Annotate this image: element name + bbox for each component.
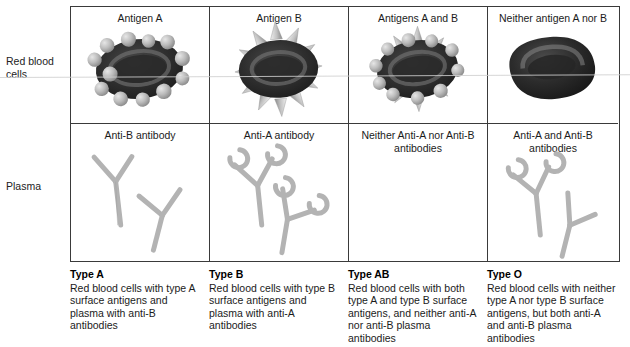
- cell-plasma-type-ab: Neither Anti-A nor Anti-B antibodies: [349, 123, 488, 261]
- cell-rbc-type-a: Antigen A: [71, 7, 210, 123]
- caption-type-o: Type O Red blood cells with neither type…: [487, 268, 630, 347]
- cell-plasma-type-a: Anti-B antibody: [71, 123, 210, 261]
- caption-type-b: Type B Red blood cells with type B surfa…: [209, 268, 348, 347]
- antibody-illustration-anti-a: [210, 124, 348, 261]
- antibody-illustration-anti-a-and-anti-b: [488, 124, 618, 261]
- caption-body-type-o: Red blood cells with neither type A nor …: [487, 282, 620, 344]
- rbc-illustration-type-b: [210, 7, 348, 123]
- cell-rbc-type-o: Neither antigen A nor B: [488, 7, 618, 123]
- cell-rbc-type-ab: Antigens A and B: [349, 7, 488, 123]
- rbc-illustration-type-o: [488, 7, 618, 123]
- caption-title-type-o: Type O: [487, 268, 620, 281]
- caption-title-type-ab: Type AB: [348, 268, 477, 281]
- caption-title-type-a: Type A: [70, 268, 199, 281]
- cell-plasma-type-o: Anti-A and Anti-B antibodies: [488, 123, 618, 261]
- antibody-illustration-none: [349, 124, 487, 261]
- caption-title-type-b: Type B: [209, 268, 338, 281]
- cell-rbc-type-b: Antigen B: [210, 7, 349, 123]
- row-label-red-blood-cells: Red blood cells: [6, 55, 68, 80]
- caption-type-ab: Type AB Red blood cells with both type A…: [348, 268, 487, 347]
- caption-body-type-ab: Red blood cells with both type A and typ…: [348, 282, 477, 344]
- caption-type-a: Type A Red blood cells with type A surfa…: [70, 268, 209, 347]
- caption-row: Type A Red blood cells with type A surfa…: [70, 268, 630, 347]
- caption-body-type-a: Red blood cells with type A surface anti…: [70, 282, 199, 332]
- rbc-illustration-type-a: [71, 7, 209, 123]
- cell-plasma-type-b: Anti-A antibody: [210, 123, 349, 261]
- blood-type-grid: Antigen A: [70, 6, 620, 262]
- row-label-plasma: Plasma: [6, 180, 68, 193]
- antibody-illustration-anti-b: [71, 124, 209, 261]
- caption-body-type-b: Red blood cells with type B surface anti…: [209, 282, 338, 332]
- rbc-illustration-type-ab: [349, 7, 487, 123]
